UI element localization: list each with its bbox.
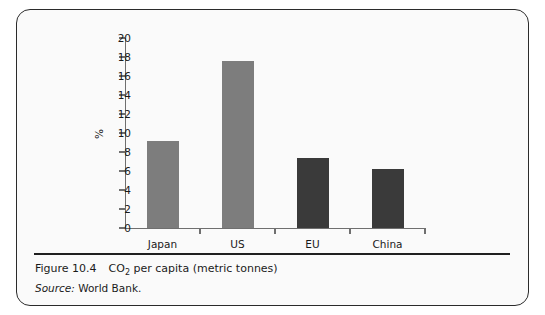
bar-japan xyxy=(147,141,179,228)
x-axis-tick xyxy=(199,228,200,234)
x-axis-tick xyxy=(424,228,425,234)
figure-source: Source: World Bank. xyxy=(35,282,141,294)
category-label-china: China xyxy=(350,238,425,250)
caption-title-after: per capita (metric tonnes) xyxy=(130,262,278,275)
source-label: Source: xyxy=(35,282,75,294)
category-label-us: US xyxy=(200,238,275,250)
figure-number: Figure 10.4 xyxy=(35,262,97,275)
bar-us xyxy=(222,61,254,228)
x-axis-tick xyxy=(274,228,275,234)
caption-title-before: CO xyxy=(109,262,125,275)
bar-eu xyxy=(297,158,329,228)
figure-caption: Figure 10.4CO2 per capita (metric tonnes… xyxy=(35,262,278,277)
category-label-japan: Japan xyxy=(125,238,200,250)
figure-frame: % 20181614121086420 JapanUSEUChina Figur… xyxy=(16,9,529,306)
x-axis-tick xyxy=(349,228,350,234)
caption-divider xyxy=(34,253,510,255)
bar-series xyxy=(125,38,425,228)
category-label-eu: EU xyxy=(275,238,350,250)
chart-plot-area: % 20181614121086420 JapanUSEUChina xyxy=(17,10,530,242)
source-value: World Bank. xyxy=(75,282,141,294)
bar-china xyxy=(372,169,404,228)
